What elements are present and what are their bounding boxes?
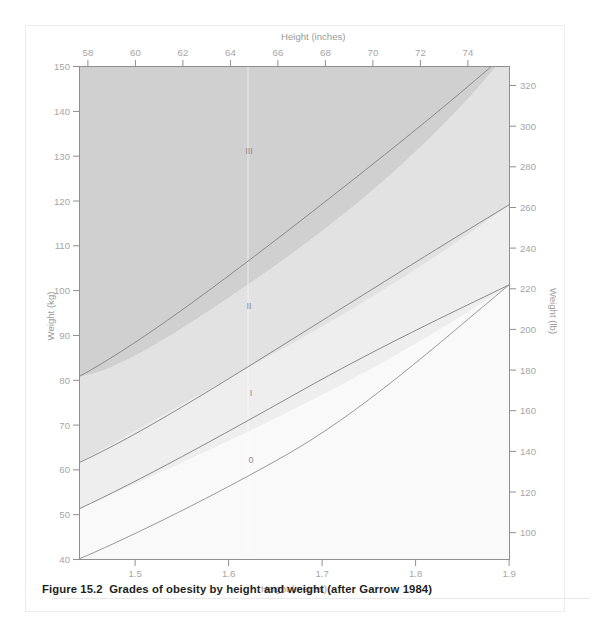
obesity-grades-chart: 40 50 60 70 80 90 100 110 120 130 140 15… <box>26 26 564 596</box>
region-label-grade-0: 0 <box>248 455 253 465</box>
tick-label-top-68: 68 <box>320 47 331 58</box>
tick-label-bottom-1.8: 1.8 <box>409 568 422 579</box>
tick-label-left-70: 70 <box>59 420 70 431</box>
tick-label-top-62: 62 <box>178 47 189 58</box>
region-label-grade-III: III <box>245 146 253 156</box>
tick-label-left-100: 100 <box>54 285 70 296</box>
figure-frame: 40 50 60 70 80 90 100 110 120 130 140 15… <box>25 25 565 612</box>
tick-label-bottom-1.6: 1.6 <box>222 568 235 579</box>
tick-label-right-300: 300 <box>520 121 536 132</box>
bottom-tick-labels: 1.5 1.6 1.7 1.8 1.9 <box>128 568 515 579</box>
left-tick-labels: 40 50 60 70 80 90 100 110 120 130 140 15… <box>54 61 70 565</box>
tick-label-right-320: 320 <box>520 80 536 91</box>
tick-label-left-90: 90 <box>59 330 70 341</box>
tick-label-right-240: 240 <box>520 243 536 254</box>
right-tick-labels: 100 120 140 160 180 200 220 240 260 280 … <box>520 80 536 538</box>
tick-label-bottom-1.9: 1.9 <box>502 568 515 579</box>
figure-page: 40 50 60 70 80 90 100 110 120 130 140 15… <box>0 0 592 639</box>
tick-label-right-180: 180 <box>520 365 536 376</box>
tick-label-right-120: 120 <box>520 487 536 498</box>
tick-label-right-160: 160 <box>520 405 536 416</box>
region-label-grade-I: I <box>250 388 253 398</box>
region-label-grade-II: II <box>246 301 251 311</box>
tick-label-top-74: 74 <box>463 47 474 58</box>
tick-label-top-60: 60 <box>130 47 141 58</box>
tick-label-top-70: 70 <box>368 47 379 58</box>
tick-label-left-140: 140 <box>54 106 70 117</box>
tick-label-left-110: 110 <box>55 240 70 251</box>
tick-label-left-50: 50 <box>59 509 70 520</box>
tick-label-bottom-1.7: 1.7 <box>315 568 328 579</box>
figure-caption: Figure 15.2 Grades of obesity by height … <box>42 583 432 595</box>
tick-label-left-80: 80 <box>59 375 70 386</box>
caption-divider <box>52 598 590 636</box>
tick-label-right-280: 280 <box>520 161 536 172</box>
axis-title-top: Height (inches) <box>281 31 346 42</box>
tick-label-right-200: 200 <box>520 324 536 335</box>
tick-label-left-150: 150 <box>54 61 70 72</box>
tick-label-left-60: 60 <box>59 464 70 475</box>
tick-label-right-220: 220 <box>520 283 536 294</box>
tick-label-right-260: 260 <box>520 202 536 213</box>
tick-label-top-72: 72 <box>415 47 426 58</box>
tick-label-top-66: 66 <box>273 47 284 58</box>
tick-label-bottom-1.5: 1.5 <box>128 568 141 579</box>
tick-label-left-40: 40 <box>59 554 70 565</box>
tick-label-top-64: 64 <box>225 47 236 58</box>
axis-title-right: Weight (lb) <box>548 288 559 334</box>
tick-label-right-100: 100 <box>520 527 536 538</box>
tick-label-right-140: 140 <box>520 446 536 457</box>
tick-label-top-58: 58 <box>83 47 94 58</box>
axis-title-left: Weight (kg) <box>45 292 56 341</box>
tick-label-left-130: 130 <box>54 151 70 162</box>
tick-label-left-120: 120 <box>54 196 70 207</box>
